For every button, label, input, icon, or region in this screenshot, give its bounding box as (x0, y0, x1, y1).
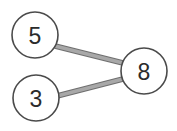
graph-diagram-canvas: 5 3 8 (0, 0, 177, 131)
edge-3-8[interactable] (57, 79, 123, 96)
edge-5-8[interactable] (55, 46, 123, 63)
node-5[interactable]: 5 (12, 12, 58, 58)
edge-3-8-core (57, 79, 123, 96)
nodes-layer: 5 3 8 (12, 12, 167, 121)
node-8[interactable]: 8 (121, 48, 167, 94)
edge-5-8-core (55, 46, 123, 63)
node-8-label: 8 (138, 59, 151, 85)
node-5-label: 5 (29, 23, 42, 49)
edges-layer (55, 46, 123, 96)
node-3[interactable]: 3 (13, 75, 59, 121)
node-3-label: 3 (30, 86, 43, 112)
graph-svg: 5 3 8 (0, 0, 177, 131)
